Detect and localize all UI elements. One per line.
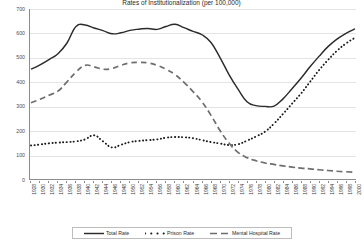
y-tick-label: 600 xyxy=(16,31,25,36)
y-tick-label: 500 xyxy=(16,55,25,60)
legend-swatch-solid-icon xyxy=(84,231,104,236)
x-tick-label: 1980 xyxy=(267,184,272,195)
x-tick-label: 1994 xyxy=(330,184,335,195)
x-tick-label: 1952 xyxy=(140,184,145,195)
y-tick-label: 400 xyxy=(16,80,25,85)
x-tick-label: 1984 xyxy=(285,184,290,195)
x-tick xyxy=(310,181,311,183)
x-tick xyxy=(165,181,166,183)
x-tick xyxy=(247,181,248,183)
x-tick xyxy=(111,181,112,183)
x-tick-label: 1978 xyxy=(258,184,263,195)
x-tick xyxy=(265,181,266,183)
x-tick xyxy=(120,181,121,183)
x-tick-label: 1954 xyxy=(149,184,154,195)
x-tick-label: 1968 xyxy=(213,184,218,195)
x-tick-label: 1962 xyxy=(185,184,190,195)
x-tick xyxy=(174,181,175,183)
x-tick xyxy=(301,181,302,183)
x-tick-label: 1932 xyxy=(50,184,55,195)
x-tick xyxy=(319,181,320,183)
x-tick-label: 1996 xyxy=(339,184,344,195)
x-tick-label: 1934 xyxy=(59,184,64,195)
x-tick xyxy=(193,181,194,183)
x-tick xyxy=(355,181,356,183)
x-tick-label: 1986 xyxy=(294,184,299,195)
x-tick-label: 1942 xyxy=(95,184,100,195)
x-tick xyxy=(346,181,347,183)
x-tick-label: 1956 xyxy=(158,184,163,195)
x-tick-label: 1950 xyxy=(131,184,136,195)
x-tick-label: 1948 xyxy=(122,184,127,195)
x-axis: 1928193019321934193619381940194219441946… xyxy=(29,181,356,211)
x-tick xyxy=(274,181,275,183)
legend-label: Total Rate xyxy=(106,230,129,236)
legend-label: Mental Hospital Rate xyxy=(232,230,280,236)
x-tick xyxy=(48,181,49,183)
x-tick-label: 2000 xyxy=(357,184,362,195)
x-tick-label: 1974 xyxy=(240,184,245,195)
x-tick xyxy=(84,181,85,183)
x-tick xyxy=(283,181,284,183)
x-tick xyxy=(39,181,40,183)
x-tick-label: 1972 xyxy=(231,184,236,195)
chart-container: Rates of Institutionalization (per 100,0… xyxy=(0,0,363,241)
x-tick xyxy=(75,181,76,183)
x-tick-label: 1982 xyxy=(276,184,281,195)
x-tick xyxy=(220,181,221,183)
plot-area xyxy=(29,9,356,180)
x-tick-label: 1940 xyxy=(86,184,91,195)
y-tick-label: 0 xyxy=(22,178,25,183)
y-axis: 0100200300400500600700 xyxy=(0,0,29,190)
x-tick xyxy=(57,181,58,183)
x-tick-label: 1966 xyxy=(204,184,209,195)
x-tick xyxy=(238,181,239,183)
y-tick-label: 700 xyxy=(16,7,25,12)
chart-legend: Total RatePrison RateMental Hospital Rat… xyxy=(72,227,292,239)
x-tick-label: 1992 xyxy=(321,184,326,195)
series-lines xyxy=(30,9,356,179)
x-tick-label: 1958 xyxy=(167,184,172,195)
legend-item[interactable]: Mental Hospital Rate xyxy=(210,230,280,236)
y-tick-label: 100 xyxy=(16,153,25,158)
x-tick-label: 1938 xyxy=(77,184,82,195)
x-tick xyxy=(102,181,103,183)
x-tick xyxy=(129,181,130,183)
x-tick xyxy=(337,181,338,183)
x-tick-label: 1976 xyxy=(249,184,254,195)
x-tick xyxy=(93,181,94,183)
x-tick xyxy=(202,181,203,183)
x-tick xyxy=(30,181,31,183)
x-tick xyxy=(147,181,148,183)
x-tick xyxy=(256,181,257,183)
legend-swatch-dotted-icon xyxy=(145,231,165,236)
x-tick xyxy=(183,181,184,183)
x-tick-label: 1964 xyxy=(195,184,200,195)
x-tick-label: 1990 xyxy=(312,184,317,195)
x-tick-label: 1928 xyxy=(32,184,37,195)
legend-label: Prison Rate xyxy=(167,230,194,236)
x-tick-label: 1988 xyxy=(303,184,308,195)
legend-item[interactable]: Prison Rate xyxy=(145,230,194,236)
x-tick xyxy=(211,181,212,183)
legend-item[interactable]: Total Rate xyxy=(84,230,129,236)
x-tick xyxy=(156,181,157,183)
series-line-mental-hospital-rate xyxy=(31,62,355,172)
x-tick-label: 1946 xyxy=(113,184,118,195)
x-tick xyxy=(292,181,293,183)
chart-title: Rates of Institutionalization (per 100,0… xyxy=(0,0,363,7)
x-tick xyxy=(328,181,329,183)
x-tick-label: 1936 xyxy=(68,184,73,195)
series-line-total-rate xyxy=(31,24,355,107)
y-tick-label: 300 xyxy=(16,104,25,109)
x-tick xyxy=(138,181,139,183)
x-tick xyxy=(66,181,67,183)
x-tick-label: 1930 xyxy=(41,184,46,195)
x-tick-label: 1998 xyxy=(348,184,353,195)
x-tick xyxy=(229,181,230,183)
legend-swatch-dashed-icon xyxy=(210,231,230,236)
x-tick-label: 1970 xyxy=(222,184,227,195)
y-tick-label: 200 xyxy=(16,129,25,134)
x-tick-label: 1960 xyxy=(176,184,181,195)
x-tick-label: 1944 xyxy=(104,184,109,195)
